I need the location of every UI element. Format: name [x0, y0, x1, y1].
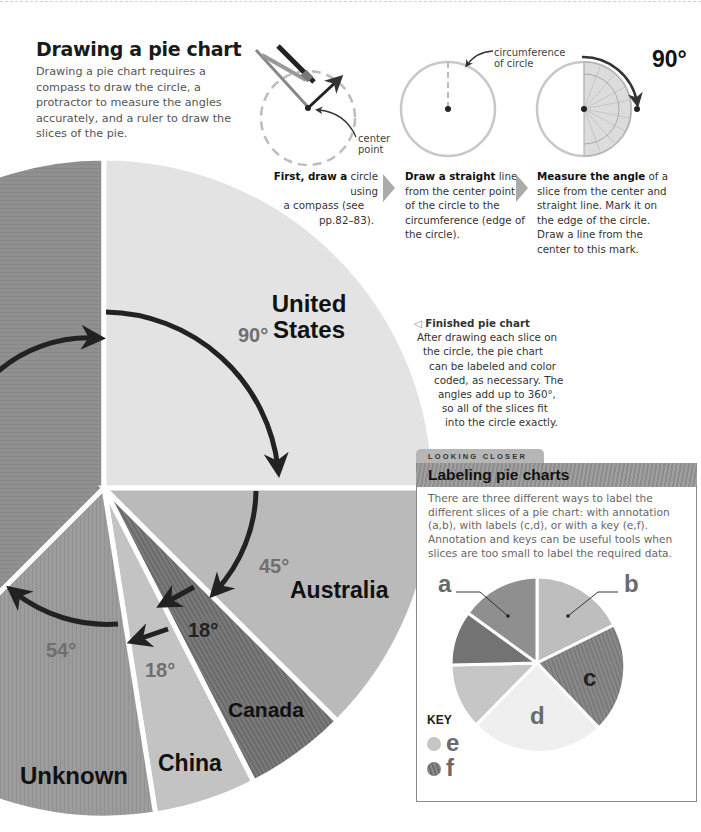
mini-label-c: c — [583, 664, 596, 692]
mini-label-d: d — [530, 702, 545, 730]
key-heading: KEY — [427, 713, 452, 727]
mini-pie-chart — [0, 0, 701, 832]
key-swatch-e — [427, 737, 441, 751]
mini-label-b: b — [624, 570, 639, 598]
key-label-f: f — [446, 754, 454, 782]
mini-label-a: a — [438, 570, 451, 598]
key-label-e: e — [446, 729, 459, 757]
key-swatch-f — [427, 762, 441, 776]
